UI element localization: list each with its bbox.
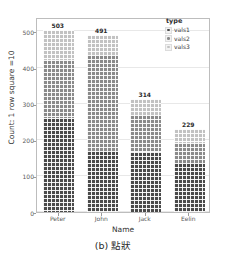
x-axis-tick-mark	[58, 213, 59, 216]
bar-segment-vals2[interactable]	[43, 60, 74, 118]
bar-segment-vals1[interactable]	[174, 163, 205, 212]
legend-entry-label: vals2	[174, 35, 190, 43]
y-axis-tick-mark	[33, 213, 36, 214]
bar-value-label: 491	[81, 27, 121, 35]
x-axis-tick-label: Jack	[120, 215, 170, 223]
bar-segment-vals2[interactable]	[87, 55, 118, 151]
x-axis-tick-mark	[145, 213, 146, 216]
legend-entry-label: vals3	[174, 43, 190, 51]
y-axis-tick-label: 0	[4, 210, 34, 217]
legend-title: type	[166, 17, 207, 25]
dot-square-icon	[165, 27, 172, 34]
bar-jack[interactable]	[130, 99, 161, 212]
x-axis-tick-label: John	[76, 215, 126, 223]
bar-segment-vals1[interactable]	[130, 152, 161, 212]
bar-peter[interactable]	[43, 30, 74, 212]
dot-square-icon	[165, 44, 172, 51]
x-axis-tick-label: Eelin	[163, 215, 213, 223]
bar-segment-vals1[interactable]	[43, 118, 74, 212]
y-axis-title: Count: 1 row square =10	[7, 23, 16, 173]
x-axis-tick-mark	[188, 213, 189, 216]
bar-value-label: 503	[38, 22, 78, 30]
y-axis-tick-label: 100	[4, 173, 34, 180]
legend: type vals1vals2vals3	[165, 17, 207, 52]
figure-caption: (b) 點狀	[0, 238, 226, 252]
legend-entry-vals2[interactable]: vals2	[165, 35, 207, 43]
bar-value-label: 229	[168, 121, 208, 129]
legend-entries: vals1vals2vals3	[165, 26, 207, 51]
legend-entry-vals3[interactable]: vals3	[165, 43, 207, 51]
y-axis-tick-label: 500	[4, 29, 34, 36]
bar-segment-vals1[interactable]	[87, 151, 118, 212]
dot-square-icon	[165, 35, 172, 42]
legend-entry-label: vals1	[174, 26, 190, 34]
bar-segment-vals2[interactable]	[174, 143, 205, 163]
bar-eelin[interactable]	[174, 129, 205, 212]
legend-entry-vals1[interactable]: vals1	[165, 26, 207, 34]
bar-segment-vals3[interactable]	[174, 129, 205, 143]
bar-segment-vals3[interactable]	[130, 99, 161, 115]
x-axis-title: Name	[36, 225, 210, 234]
y-axis-tick-label: 300	[4, 101, 34, 108]
bar-segment-vals3[interactable]	[43, 30, 74, 60]
figure: Count: 1 row square =10 0100200300400500…	[0, 0, 226, 260]
y-axis-tick-label: 200	[4, 137, 34, 144]
x-axis-tick-label: Peter	[33, 215, 83, 223]
bar-segment-vals3[interactable]	[87, 35, 118, 55]
x-axis-tick-mark	[101, 213, 102, 216]
y-axis-tick-label: 400	[4, 65, 34, 72]
bar-john[interactable]	[87, 35, 118, 212]
bar-value-label: 314	[125, 91, 165, 99]
bar-segment-vals2[interactable]	[130, 115, 161, 153]
